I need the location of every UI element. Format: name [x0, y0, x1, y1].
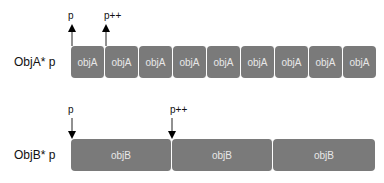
obja-box: objA [241, 46, 275, 78]
obja-array: objA objA objA objA objA objA objA objA … [71, 46, 376, 78]
objb-box: objB [71, 139, 172, 171]
row-a-label: ObjA* p [14, 55, 55, 69]
objb-box: objB [273, 139, 375, 171]
pointer-p-inc-label-a: p++ [104, 10, 121, 21]
obja-box: objA [207, 46, 241, 78]
pointer-p-inc-label-b: p++ [170, 104, 187, 115]
obja-box: objA [71, 46, 105, 78]
obja-box: objA [343, 46, 376, 78]
obja-box: objA [105, 46, 139, 78]
obja-box: objA [309, 46, 343, 78]
row-b-label: ObjB* p [14, 148, 55, 162]
pointer-p-label-a: p [68, 10, 74, 21]
obja-box: objA [275, 46, 309, 78]
objb-box: objB [172, 139, 273, 171]
obja-box: objA [139, 46, 173, 78]
objb-array: objB objB objB [71, 139, 375, 171]
pointer-p-label-b: p [68, 104, 74, 115]
obja-box: objA [173, 46, 207, 78]
